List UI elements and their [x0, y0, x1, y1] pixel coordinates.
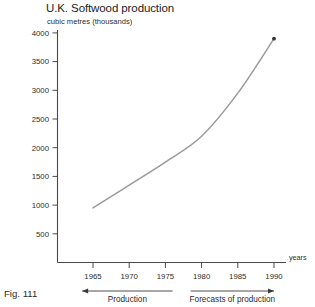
y-tick-label: 3500 — [32, 57, 50, 66]
production-span-arrowhead-icon — [82, 288, 88, 293]
x-tick-label: 1985 — [229, 272, 247, 281]
y-tick-label: 2500 — [32, 115, 50, 124]
x-tick-label: 1990 — [265, 272, 283, 281]
x-tick-label: 1970 — [121, 272, 139, 281]
forecasts-span-label: Forecasts of production — [190, 295, 276, 304]
axis-annotations-group: ProductionForecasts of production — [82, 288, 275, 304]
y-tick-label: 500 — [36, 230, 50, 239]
x-tick-label: 1975 — [157, 272, 175, 281]
y-axis-ticks: 5001000150020002500300035004000 — [32, 29, 58, 239]
production-span-label: Production — [108, 295, 148, 304]
x-axis-ticks: 196519701975198019851990 — [84, 263, 283, 281]
x-tick-label: 1965 — [84, 272, 102, 281]
y-tick-label: 2000 — [32, 144, 50, 153]
x-axis-label: years — [289, 253, 307, 262]
figure-container: U.K. Softwood production cubic metres (t… — [0, 0, 315, 307]
y-tick-label: 1000 — [32, 201, 50, 210]
series-line — [93, 39, 274, 208]
forecasts-span-arrowhead-icon — [268, 288, 274, 293]
y-tick-label: 4000 — [32, 29, 50, 38]
y-tick-label: 3000 — [32, 86, 50, 95]
y-tick-label: 1500 — [32, 172, 50, 181]
data-series-group — [93, 37, 276, 208]
figure-caption: Fig. 111 — [4, 288, 37, 299]
x-tick-label: 1980 — [193, 272, 211, 281]
series-end-marker — [272, 37, 276, 41]
line-chart-plot: 5001000150020002500300035004000 19651970… — [0, 0, 315, 307]
